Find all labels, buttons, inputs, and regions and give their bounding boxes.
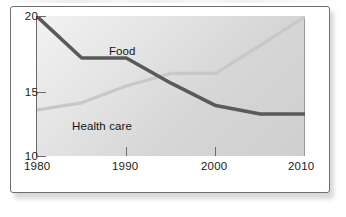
- chart-figure: 20 15 10 1980 1990 2000 2010 Food Health…: [0, 0, 346, 217]
- x-axis-label-2010: 2010: [288, 160, 314, 172]
- x-axis-label-1980: 1980: [24, 160, 50, 172]
- x-tick-mark-1990: [126, 147, 127, 156]
- y-axis-label-20: 20: [25, 10, 38, 22]
- series-line-food: [38, 17, 305, 114]
- y-axis-label-15: 15: [25, 86, 38, 98]
- y-tick-mark-20: [37, 16, 46, 17]
- x-tick-mark-2000: [215, 147, 216, 156]
- plot-svg: [37, 16, 305, 156]
- x-axis-label-1990: 1990: [112, 160, 138, 172]
- series-line-health-care: [38, 17, 305, 110]
- plot-area: [37, 16, 305, 156]
- y-tick-mark-15: [37, 92, 46, 93]
- series-label-food: Food: [109, 45, 136, 57]
- scan-artifact: [0, 0, 346, 3]
- x-axis-label-2000: 2000: [201, 160, 227, 172]
- y-tick-mark-10: [37, 156, 46, 157]
- series-label-health-care: Health care: [72, 120, 132, 132]
